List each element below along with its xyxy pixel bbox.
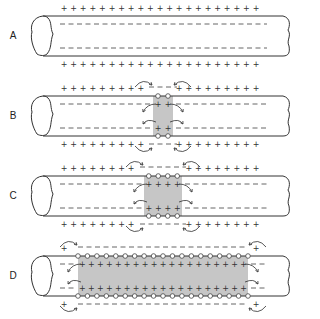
plus-sign: + — [224, 60, 231, 69]
plus-sign: + — [233, 4, 240, 13]
plus-sign: + — [243, 220, 250, 229]
open-channel-icon — [217, 294, 222, 299]
plus-sign: + — [253, 300, 260, 309]
plus-sign: + — [205, 164, 212, 173]
plus-sign: + — [147, 60, 154, 69]
plus-sign: + — [169, 284, 176, 293]
plus-sign: + — [106, 284, 113, 293]
axon-end-cap — [283, 176, 289, 216]
open-channel-icon — [95, 294, 100, 299]
open-channel-icon — [161, 254, 166, 259]
plus-sign: + — [243, 164, 250, 173]
plus-sign: + — [214, 84, 221, 93]
plus-sign: + — [109, 4, 116, 13]
open-channel-icon — [227, 254, 232, 259]
open-channel-icon — [132, 254, 137, 259]
open-channel-icon — [161, 294, 166, 299]
plus-sign: + — [214, 220, 221, 229]
plus-sign: + — [233, 84, 240, 93]
plus-sign: + — [224, 140, 231, 149]
plus-sign: + — [231, 284, 238, 293]
plus-sign: + — [61, 4, 68, 13]
plus-sign: + — [176, 84, 183, 93]
plus-sign: + — [233, 60, 240, 69]
plus-sign: + — [178, 260, 185, 269]
plus-sign: + — [70, 164, 77, 173]
plus-sign: + — [253, 4, 260, 13]
open-channel-icon — [166, 134, 171, 139]
plus-sign: + — [109, 164, 116, 173]
open-channel-icon — [156, 94, 161, 99]
open-channel-icon — [175, 214, 180, 219]
plus-sign: + — [137, 4, 144, 13]
plus-sign: + — [70, 84, 77, 93]
plus-sign: + — [195, 60, 202, 69]
plus-sign: + — [165, 124, 172, 133]
plus-sign: + — [185, 140, 192, 149]
open-channel-icon — [104, 294, 109, 299]
plus-sign: + — [89, 164, 96, 173]
plus-sign: + — [186, 284, 193, 293]
plus-sign: + — [213, 260, 220, 269]
open-channel-icon — [165, 174, 170, 179]
plus-sign: + — [145, 180, 152, 189]
plus-sign: + — [106, 260, 113, 269]
open-channel-icon — [189, 294, 194, 299]
axon-end-cap — [283, 16, 289, 56]
open-channel-icon — [208, 294, 213, 299]
plus-sign: + — [240, 284, 247, 293]
plus-sign: + — [205, 4, 212, 13]
plus-sign: + — [174, 204, 181, 213]
open-channel-icon — [95, 254, 100, 259]
plus-sign: + — [118, 84, 125, 93]
plus-sign: + — [128, 164, 135, 173]
plus-sign: + — [205, 220, 212, 229]
plus-sign: + — [61, 164, 68, 173]
open-channel-icon — [180, 294, 185, 299]
plus-sign: + — [243, 4, 250, 13]
plus-sign: + — [80, 140, 87, 149]
plus-sign: + — [88, 260, 95, 269]
plus-sign: + — [164, 180, 171, 189]
plus-sign: + — [214, 4, 221, 13]
open-channel-icon — [113, 294, 118, 299]
plus-sign: + — [80, 60, 87, 69]
open-channel-icon — [104, 254, 109, 259]
open-channel-icon — [85, 254, 90, 259]
plus-sign: + — [99, 220, 106, 229]
plus-sign: + — [61, 140, 68, 149]
plus-sign: + — [253, 60, 260, 69]
plus-sign: + — [231, 260, 238, 269]
plus-sign: + — [243, 60, 250, 69]
plus-sign: + — [142, 260, 149, 269]
open-channel-icon — [76, 254, 81, 259]
panel-c: ++++++++++++++++++++++++++++++++++++++++ — [31, 161, 289, 231]
axon-end-cap — [283, 256, 289, 296]
open-channel-icon — [236, 254, 241, 259]
plus-sign: + — [99, 4, 106, 13]
plus-sign: + — [176, 4, 183, 13]
plus-sign: + — [205, 140, 212, 149]
plus-sign: + — [195, 260, 202, 269]
open-channel-icon — [170, 294, 175, 299]
plus-sign: + — [174, 180, 181, 189]
plus-sign: + — [222, 284, 229, 293]
plus-sign: + — [233, 220, 240, 229]
open-channel-icon — [198, 254, 203, 259]
open-channel-icon — [113, 254, 118, 259]
plus-sign: + — [157, 4, 164, 13]
plus-sign: + — [185, 164, 192, 173]
plus-sign: + — [195, 284, 202, 293]
plus-sign: + — [70, 220, 77, 229]
plus-sign: + — [137, 84, 144, 93]
open-channel-icon — [151, 294, 156, 299]
plus-sign: + — [253, 164, 260, 173]
plus-sign: + — [176, 60, 183, 69]
open-channel-icon — [142, 254, 147, 259]
plus-sign: + — [115, 260, 122, 269]
plus-sign: + — [185, 60, 192, 69]
plus-sign: + — [155, 180, 162, 189]
open-channel-icon — [132, 294, 137, 299]
plus-sign: + — [118, 140, 125, 149]
open-channel-icon — [156, 214, 161, 219]
